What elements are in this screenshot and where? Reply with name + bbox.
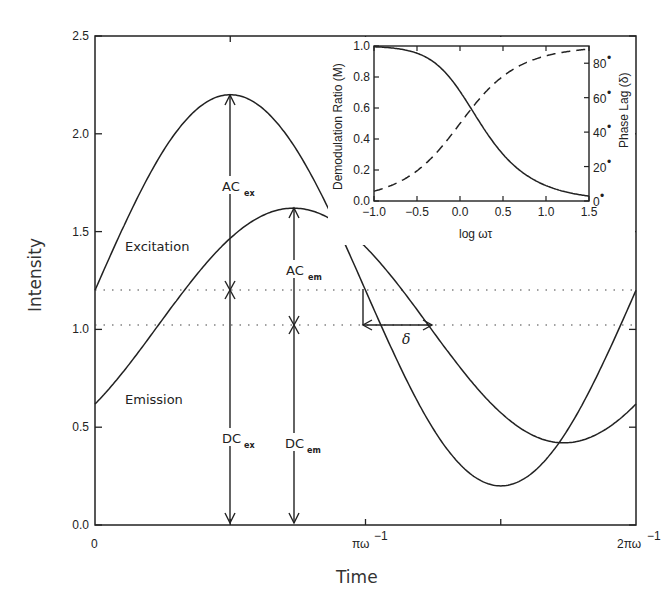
inset-y-axis-title: Demodulation Ratio (M) (331, 63, 345, 190)
svg-text:•: • (607, 51, 611, 65)
svg-text:1.0: 1.0 (538, 205, 555, 219)
y-axis-title: Intensity (25, 238, 45, 312)
svg-text:1.0: 1.0 (353, 39, 370, 53)
svg-text:0.8: 0.8 (353, 70, 370, 84)
svg-text:80: 80 (593, 57, 607, 71)
svg-text:ex: ex (244, 189, 255, 198)
svg-text:0.2: 0.2 (353, 163, 370, 177)
dc-ex-label: DC ex (221, 428, 255, 450)
figure: Excitation Emission δ AC ex AC em DC ex … (0, 0, 667, 600)
svg-text:AC: AC (222, 179, 240, 194)
svg-text:•: • (607, 86, 611, 100)
svg-text:40: 40 (593, 126, 607, 140)
svg-text:•: • (607, 120, 611, 134)
svg-text:DC: DC (285, 436, 304, 451)
svg-text:2.5: 2.5 (72, 29, 89, 43)
svg-text:−1: −1 (374, 529, 388, 543)
svg-text:1.5: 1.5 (72, 225, 89, 239)
svg-text:DC: DC (222, 431, 241, 446)
svg-text:2.0: 2.0 (72, 127, 89, 141)
x-tick-pi: πω −1 (352, 529, 388, 551)
svg-text:0.0: 0.0 (353, 194, 370, 208)
svg-text:−1: −1 (647, 529, 661, 543)
svg-text:0: 0 (593, 195, 600, 209)
ac-ex-label: AC ex (221, 176, 255, 198)
svg-text:−0.5: −0.5 (405, 205, 429, 219)
svg-text:0.4: 0.4 (353, 132, 370, 146)
svg-text:0.0: 0.0 (72, 518, 89, 532)
svg-text:20: 20 (593, 161, 607, 175)
svg-text:60: 60 (593, 92, 607, 106)
x-axis-title: Time (335, 567, 378, 587)
svg-text:0.5: 0.5 (495, 205, 512, 219)
x-tick-0: 0 (91, 537, 98, 551)
excitation-ac-dc-arrows (225, 95, 235, 523)
delta-label: δ (402, 331, 410, 347)
excitation-label: Excitation (125, 239, 189, 254)
inset-y2-axis-title: Phase Lag (δ) (617, 73, 631, 148)
svg-text:0.5: 0.5 (72, 420, 89, 434)
x-tick-2pi: 2πω −1 (617, 529, 661, 551)
inset-x-axis-title: log ωτ (459, 227, 493, 241)
svg-text:em: em (308, 273, 322, 282)
svg-text:em: em (307, 446, 321, 455)
emission-label: Emission (125, 392, 183, 407)
y-axis-tick-labels: 0.00.51.01.52.02.5 (72, 29, 89, 532)
svg-text:ex: ex (244, 441, 255, 450)
emission-ac-dc-arrows (289, 208, 299, 523)
svg-text:πω: πω (352, 537, 369, 551)
svg-text:0.0: 0.0 (452, 205, 469, 219)
svg-text:1.0: 1.0 (72, 322, 89, 336)
ac-em-label: AC em (285, 260, 322, 282)
svg-text:•: • (607, 155, 611, 169)
svg-text:0.6: 0.6 (353, 101, 370, 115)
svg-text:•: • (600, 189, 604, 203)
svg-text:2πω: 2πω (617, 537, 641, 551)
dc-em-label: DC em (284, 433, 321, 455)
svg-text:AC: AC (286, 263, 304, 278)
